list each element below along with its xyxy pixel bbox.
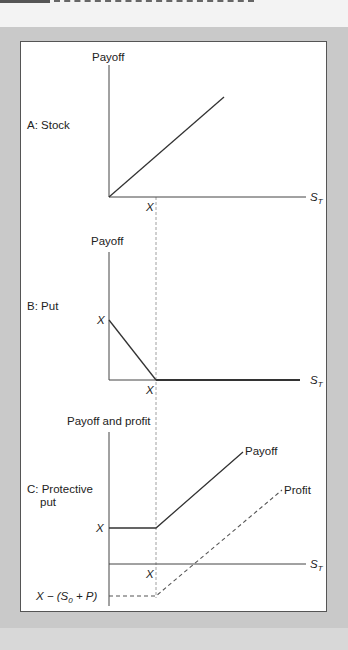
panel-c-label-line1: C: Protective [27,483,93,495]
panel-c-x-tick: X [145,568,155,580]
panel-c-payoff-line [109,452,243,528]
panel-c-label-line2: put [40,496,57,508]
panel-b-ylabel: Payoff [91,235,124,247]
panel-c-y-tick-low: X − (S0 + P) [35,590,98,605]
panel-b-put-payoff-line [109,320,156,380]
panel-c-profit-line [109,490,282,596]
panel-c-ylabel: Payoff and profit [67,415,151,427]
panel-b-xlabel: ST [310,374,324,389]
panel-b-put: Payoff B: Put ST X X [27,235,324,396]
panel-a-xlabel: ST [310,191,324,206]
panel-c-protective-put: Payoff and profit C: Protective put Payo… [27,415,324,606]
panel-c-y-tick-x: X [95,522,105,534]
panel-b-y-tick: X [96,314,106,326]
panel-a-ylabel: Payoff [92,51,125,63]
panel-c-xlabel: ST [310,558,324,573]
panel-c-profit-label: Profit [284,484,312,496]
panel-a-label: A: Stock [27,119,70,131]
panel-a-x-tick: X [145,201,155,213]
panel-b-label: B: Put [27,300,59,312]
panel-a-stock-payoff-line [109,97,224,197]
panel-a-stock: Payoff A: Stock ST X [27,51,324,213]
panel-b-x-tick: X [145,384,155,396]
figure-diagram: Payoff A: Stock ST X Payoff B: Put ST X … [0,0,348,650]
panel-c-payoff-label: Payoff [245,445,278,457]
